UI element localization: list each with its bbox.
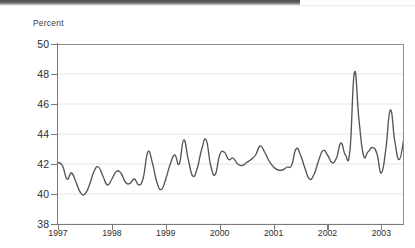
- x-tick-mark: [327, 224, 328, 230]
- x-tick-mark: [220, 224, 221, 230]
- y-tick-label: 46: [37, 98, 49, 110]
- y-axis-tick-labels: 38404244464850: [0, 0, 49, 248]
- plot-frame-border: [58, 44, 404, 224]
- line-chart: Percent 38404244464850 19971998199920002…: [0, 0, 415, 248]
- x-tick-mark: [381, 224, 382, 230]
- plot-area: [58, 44, 404, 224]
- y-tick-label: 38: [37, 218, 49, 230]
- y-tick-label: 42: [37, 158, 49, 170]
- x-tick-mark: [274, 224, 275, 230]
- y-tick-label: 48: [37, 68, 49, 80]
- y-tick-label: 40: [37, 188, 49, 200]
- x-tick-mark: [112, 224, 113, 230]
- y-tick-label: 50: [37, 38, 49, 50]
- x-tick-mark: [166, 224, 167, 230]
- y-tick-label: 44: [37, 128, 49, 140]
